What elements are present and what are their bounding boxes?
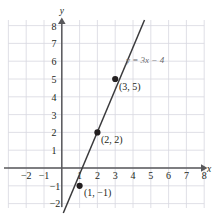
data-point-label-2-2: (2, 2) [101,134,123,146]
y-tick-label: 1 [52,145,57,156]
data-point-label-3-5: (3, 5) [119,81,141,93]
y-tick-label: 6 [52,56,57,67]
data-point-1-neg1 [77,183,83,189]
y-tick-label: 4 [52,92,57,103]
x-tick-label: 2 [95,170,100,181]
y-tick-label: 5 [52,74,57,85]
x-axis-label: x [206,164,212,174]
x-tick-label: 7 [184,170,189,181]
y-tick-label: 3 [52,110,57,121]
graph-figure: x y −2 −1 1 2 3 4 5 6 7 8 8 7 6 5 4 3 2 … [0,0,216,222]
y-tick-label: 2 [52,127,57,138]
data-point-3-5 [112,76,118,82]
y-tick-label: −2 [50,198,61,209]
x-tick-label: 3 [113,170,118,181]
x-tick-label: −1 [39,170,50,181]
data-point-label-1-neg1: (1, −1) [84,187,111,199]
x-tick-label: 6 [166,170,171,181]
y-axis-label: y [59,6,65,16]
y-tick-label: 8 [52,21,57,32]
y-tick-label: −1 [50,181,61,192]
data-point-2-2 [94,129,100,135]
x-tick-label: −2 [21,170,32,181]
coordinate-plane-svg: x y −2 −1 1 2 3 4 5 6 7 8 8 7 6 5 4 3 2 … [0,0,216,222]
x-tick-label: 4 [131,170,136,181]
x-tick-label: 5 [148,170,153,181]
y-tick-label: 7 [52,38,57,49]
x-tick-label: 8 [202,170,207,181]
equation-annotation: y = 3x − 4 [125,55,165,65]
